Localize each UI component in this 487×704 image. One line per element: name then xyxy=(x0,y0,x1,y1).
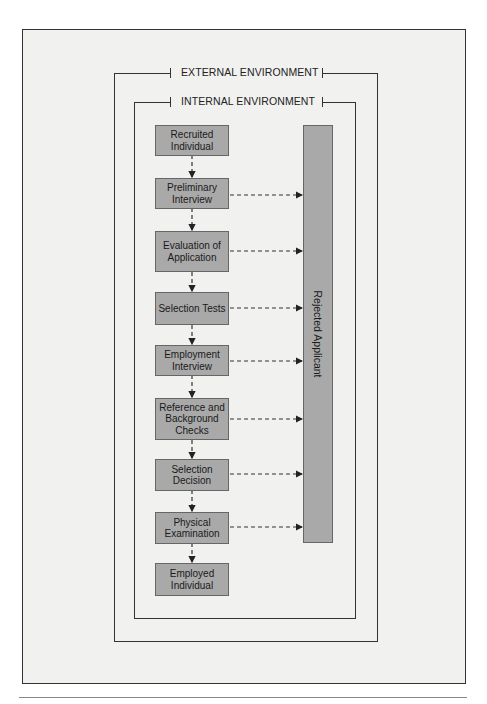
step-label: Employment Interview xyxy=(156,349,228,372)
connector-arrows xyxy=(0,0,487,704)
step-label: Selection Tests xyxy=(158,303,225,315)
step-employment-interview: Employment Interview xyxy=(155,345,229,376)
step-selection-decision: Selection Decision xyxy=(155,459,229,491)
step-selection-tests: Selection Tests xyxy=(155,292,229,325)
step-label: Reference and Background Checks xyxy=(156,402,228,437)
step-label: Employed Individual xyxy=(156,568,228,591)
step-recruited-individual: Recruited Individual xyxy=(155,125,229,156)
step-preliminary-interview: Preliminary Interview xyxy=(155,178,229,209)
step-label: Physical Examination xyxy=(156,517,228,540)
footer-rule xyxy=(19,697,467,698)
step-employed-individual: Employed Individual xyxy=(155,563,229,596)
step-label: Recruited Individual xyxy=(156,129,228,152)
step-label: Preliminary Interview xyxy=(156,182,228,205)
step-evaluation-of-application: Evaluation of Application xyxy=(155,231,229,272)
step-physical-examination: Physical Examination xyxy=(155,512,229,544)
step-reference-background-checks: Reference and Background Checks xyxy=(155,398,229,440)
step-label: Evaluation of Application xyxy=(156,240,228,263)
rejected-applicant-bar: Rejected Applicant xyxy=(303,125,333,543)
rejected-applicant-label: Rejected Applicant xyxy=(312,291,324,378)
step-label: Selection Decision xyxy=(156,464,228,487)
